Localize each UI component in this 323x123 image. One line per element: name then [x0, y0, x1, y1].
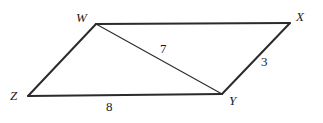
figure-canvas: [0, 0, 323, 123]
measure-label-diagonal-wy: 7: [160, 42, 167, 55]
vertex-label-z: Z: [10, 89, 17, 102]
edge-yz: [28, 94, 222, 96]
edge-wy-diagonal: [96, 24, 222, 94]
edge-zw: [28, 24, 96, 96]
edge-xy: [222, 23, 290, 94]
vertex-label-w: W: [76, 11, 87, 24]
vertex-label-x: X: [296, 10, 304, 23]
geometry-figure: W X Y Z 7 3 8: [0, 0, 323, 123]
vertex-label-y: Y: [229, 94, 236, 107]
edge-wx: [96, 23, 290, 24]
measure-label-side-zy: 8: [106, 100, 113, 113]
measure-label-side-xy: 3: [261, 55, 268, 68]
